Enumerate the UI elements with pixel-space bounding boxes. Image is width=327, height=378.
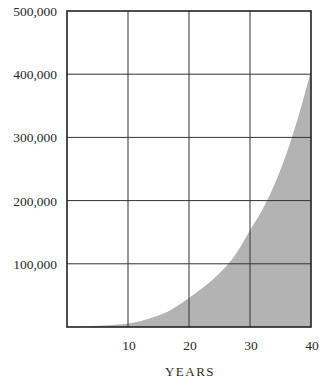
- y-tick-label: 500,000: [13, 4, 57, 19]
- y-tick-label: 100,000: [13, 257, 57, 272]
- x-axis-label: YEARS: [165, 364, 215, 378]
- y-tick-label: 400,000: [13, 67, 57, 82]
- y-tick-label: 200,000: [13, 194, 57, 209]
- y-axis-tick-labels: 100,000200,000300,000400,000500,000: [13, 4, 57, 272]
- x-tick-label: 30: [244, 338, 258, 353]
- x-tick-label: 20: [183, 338, 197, 353]
- y-tick-label: 300,000: [13, 130, 57, 145]
- x-tick-label: 40: [305, 338, 319, 353]
- x-tick-label: 10: [122, 338, 136, 353]
- growth-area-chart: 100,000200,000300,000400,000500,000 1020…: [0, 0, 327, 378]
- x-axis-tick-labels: 10203040: [122, 338, 319, 353]
